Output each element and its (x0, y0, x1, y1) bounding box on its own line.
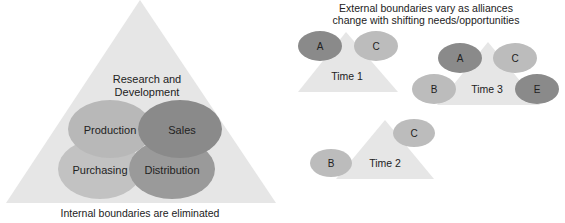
time1-a-label: A (317, 41, 324, 52)
diagram-canvas: Research and Development Production Sale… (0, 0, 565, 223)
distribution-label: Distribution (144, 164, 199, 176)
time2-b-label: B (328, 158, 335, 169)
right-title-line2: change with shifting needs/opportunities (333, 14, 520, 26)
rd-label-line1: Research and (113, 73, 182, 85)
production-label: Production (84, 124, 137, 136)
time3-c-label: C (511, 53, 518, 64)
time1-label: Time 1 (331, 70, 363, 82)
time2-c-label: C (410, 128, 417, 139)
time2-label: Time 2 (369, 157, 401, 169)
right-title-line1: External boundaries vary as alliances (339, 2, 513, 14)
sales-label: Sales (168, 124, 196, 136)
purchasing-label: Purchasing (72, 164, 127, 176)
left-caption: Internal boundaries are eliminated (61, 207, 220, 219)
time3-e-label: E (534, 84, 541, 95)
time3-label: Time 3 (471, 83, 503, 95)
time3-b-label: B (431, 84, 438, 95)
time3-a-label: A (457, 53, 464, 64)
rd-label-line2: Development (115, 86, 180, 98)
time1-c-label: C (372, 41, 379, 52)
